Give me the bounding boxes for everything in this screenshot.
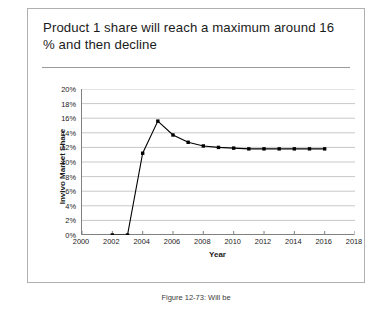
gridlines — [82, 89, 355, 235]
x-tick-label: 2008 — [194, 237, 210, 246]
x-tick-label: 2002 — [103, 237, 119, 246]
plot-svg — [82, 89, 355, 235]
data-point-marker — [156, 119, 159, 122]
x-tick-label: 2004 — [133, 237, 149, 246]
line-chart: Invivo Market Share 0%2%4%6%8%10%12%14%1… — [36, 75, 358, 273]
title-divider — [42, 67, 350, 68]
y-tick-label: 10% — [61, 158, 76, 167]
slide-frame: Product 1 share will reach a maximum aro… — [27, 8, 365, 283]
x-tick-label: 2000 — [73, 237, 89, 246]
slide-title: Product 1 share will reach a maximum aro… — [43, 19, 348, 53]
series-line — [112, 121, 324, 235]
series-markers — [111, 119, 327, 235]
y-axis-ticks: 0%2%4%6%8%10%12%14%16%18%20% — [36, 89, 79, 235]
x-tick-label: 2016 — [315, 237, 331, 246]
data-point-marker — [202, 144, 205, 147]
y-tick-label: 12% — [61, 143, 76, 152]
y-tick-label: 16% — [61, 114, 76, 123]
y-tick-label: 2% — [65, 216, 76, 225]
data-point-marker — [126, 233, 129, 235]
y-tick-label: 4% — [65, 201, 76, 210]
x-tick-label: 2014 — [285, 237, 301, 246]
y-tick-label: 14% — [61, 128, 76, 137]
x-tick-label: 2018 — [346, 237, 362, 246]
data-point-marker — [293, 147, 296, 150]
y-tick-label: 20% — [61, 85, 76, 94]
data-point-marker — [262, 147, 265, 150]
x-axis-ticks: 2000200220042006200820102012201420162018 — [81, 237, 354, 249]
data-point-marker — [186, 141, 189, 144]
data-point-marker — [277, 147, 280, 150]
x-tick-label: 2010 — [224, 237, 240, 246]
series-group — [111, 119, 327, 235]
data-point-marker — [171, 133, 174, 136]
y-tick-label: 8% — [65, 172, 76, 181]
data-point-marker — [247, 147, 250, 150]
plot-area — [81, 89, 354, 235]
y-tick-label: 18% — [61, 99, 76, 108]
screenshot-root: Product 1 share will reach a maximum aro… — [0, 0, 392, 309]
data-point-marker — [232, 146, 235, 149]
data-point-marker — [308, 147, 311, 150]
figure-caption: Figure 12-73: Will be — [0, 293, 392, 302]
x-tick-label: 2012 — [255, 237, 271, 246]
data-point-marker — [217, 146, 220, 149]
data-point-marker — [141, 152, 144, 155]
x-tick-label: 2006 — [164, 237, 180, 246]
y-tick-label: 6% — [65, 187, 76, 196]
x-axis-title: Year — [81, 250, 354, 259]
data-point-marker — [111, 233, 114, 235]
data-point-marker — [323, 147, 326, 150]
